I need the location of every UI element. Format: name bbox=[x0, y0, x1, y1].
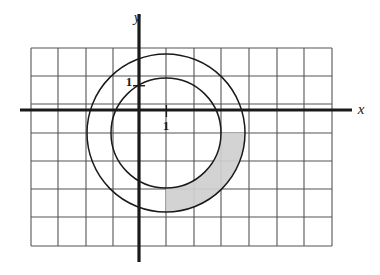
coordinate-graph-canvas: y x 1 1 bbox=[0, 0, 380, 275]
x-axis-label: x bbox=[357, 101, 365, 117]
figure-root: y x 1 1 bbox=[0, 0, 380, 275]
canvas-background bbox=[0, 0, 380, 275]
y-axis-label: y bbox=[132, 9, 141, 25]
y-axis-unit-label: 1 bbox=[126, 74, 133, 89]
x-axis-unit-label: 1 bbox=[163, 118, 170, 133]
